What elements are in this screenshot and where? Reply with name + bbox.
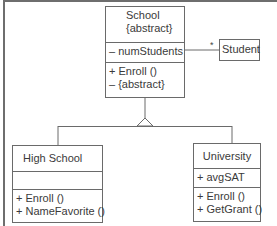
operation: + Enroll () — [16, 192, 99, 205]
operation: – {abstract} — [109, 78, 181, 91]
class-name: School — [126, 9, 181, 22]
inheritance-triangle-icon — [137, 118, 153, 126]
attribute: – numStudents — [109, 45, 181, 58]
university-name-compartment: University — [194, 144, 260, 168]
association-multiplicity: * — [210, 40, 214, 50]
class-student[interactable]: Student — [219, 39, 260, 61]
class-school[interactable]: School {abstract} – numStudents + Enroll… — [105, 6, 185, 98]
student-name-compartment: Student — [220, 40, 259, 60]
attribute: + avgSAT — [197, 171, 257, 184]
operation: + Enroll () — [197, 190, 257, 203]
operation: + Enroll () — [109, 65, 181, 78]
class-name: Student — [222, 43, 257, 56]
class-high-school[interactable]: High School + Enroll () + NameFavorite (… — [12, 145, 103, 223]
school-attributes: – numStudents — [106, 42, 184, 62]
school-name-compartment: School {abstract} — [106, 7, 184, 42]
school-operations: + Enroll () – {abstract} — [106, 62, 184, 97]
highschool-name-compartment: High School — [13, 146, 102, 171]
university-attributes: + avgSAT — [194, 168, 260, 187]
class-name: High School — [23, 152, 102, 165]
operation: + NameFavorite () — [16, 205, 99, 218]
class-university[interactable]: University + avgSAT + Enroll () + GetGra… — [193, 143, 261, 222]
class-stereotype: {abstract} — [126, 22, 181, 35]
university-operations: + Enroll () + GetGrant () — [194, 187, 260, 221]
operation: + GetGrant () — [197, 203, 257, 216]
highschool-operations: + Enroll () + NameFavorite () — [13, 189, 102, 222]
highschool-attributes — [13, 171, 102, 189]
class-name: University — [197, 150, 257, 163]
